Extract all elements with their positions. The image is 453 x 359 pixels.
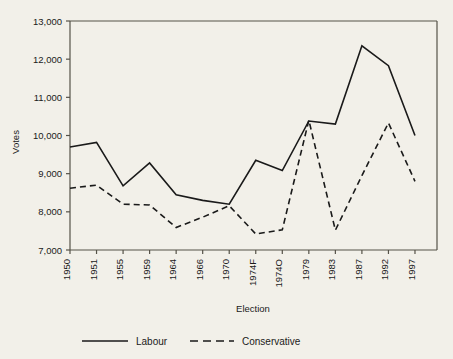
y-tick-label: 13,000: [33, 16, 62, 27]
x-tick-label: 1979: [300, 259, 311, 280]
x-tick-label: 1983: [326, 259, 337, 280]
chart-background: [0, 0, 453, 359]
x-tick-label: 1992: [379, 259, 390, 280]
votes-by-election-line-chart: 7,0008,0009,00010,00011,00012,00013,000 …: [0, 0, 453, 359]
x-tick-label: 1970: [220, 259, 231, 280]
y-tick-label: 7,000: [38, 245, 62, 256]
y-tick-label: 8,000: [38, 206, 62, 217]
y-axis-title: Votes: [10, 130, 21, 154]
x-tick-label: 1974O: [273, 259, 284, 288]
x-tick-label: 1966: [194, 259, 205, 280]
x-axis-title: Election: [236, 303, 270, 314]
x-tick-label: 1950: [61, 259, 72, 280]
y-tick-label: 10,000: [33, 130, 62, 141]
chart-container: 7,0008,0009,00010,00011,00012,00013,000 …: [0, 0, 453, 359]
legend-label-labour: Labour: [136, 336, 168, 347]
x-tick-label: 1951: [88, 259, 99, 280]
x-tick-label: 1955: [114, 259, 125, 280]
x-tick-label: 1987: [353, 259, 364, 280]
y-tick-label: 12,000: [33, 54, 62, 65]
x-tick-label: 1959: [141, 259, 152, 280]
x-tick-label: 1974F: [247, 259, 258, 286]
x-tick-label: 1964: [167, 259, 178, 280]
y-tick-label: 9,000: [38, 168, 62, 179]
y-tick-label: 11,000: [34, 92, 62, 103]
x-tick-label: 1997: [406, 259, 417, 280]
legend-label-conservative: Conservative: [242, 336, 301, 347]
